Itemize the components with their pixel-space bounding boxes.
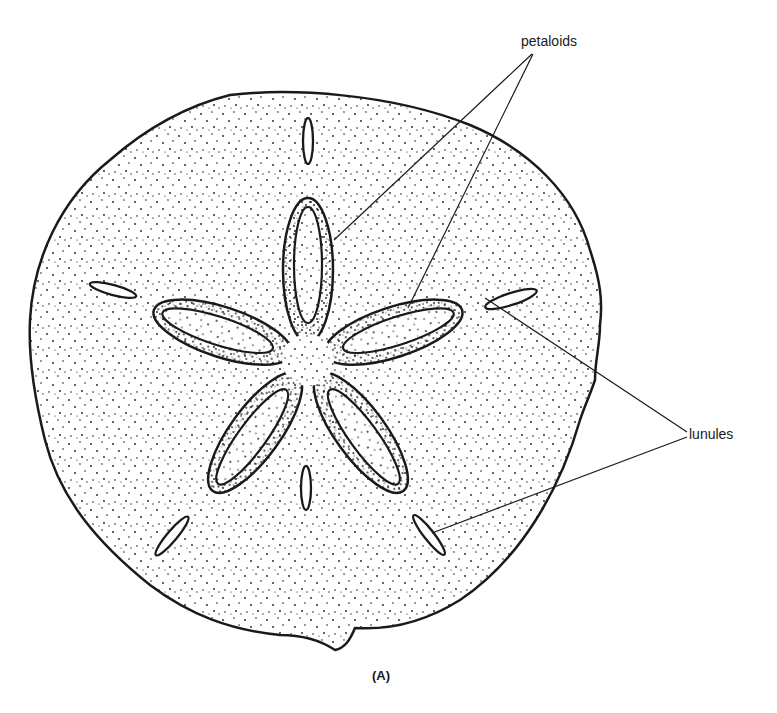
petaloids-label: petaloids bbox=[521, 34, 577, 48]
lunules-label: lunules bbox=[689, 427, 733, 441]
figure-caption: (A) bbox=[372, 669, 390, 682]
sand-dollar-diagram bbox=[0, 0, 777, 713]
lunule-top bbox=[303, 118, 313, 164]
lunule-bottom-center bbox=[301, 466, 311, 510]
